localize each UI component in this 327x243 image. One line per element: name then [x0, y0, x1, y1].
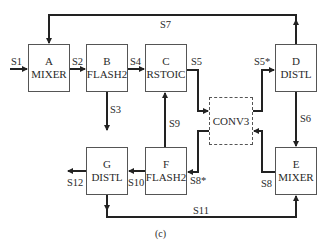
block-g-type: DISTL	[91, 171, 122, 184]
block-conv3: CONV3	[209, 97, 253, 145]
block-e-type: MIXER	[278, 171, 313, 184]
block-g-id: G	[103, 158, 111, 171]
stream-label-s4: S4	[130, 56, 141, 67]
block-e-id: E	[293, 158, 300, 171]
block-e-mixer: E MIXER	[275, 147, 317, 195]
stream-s5star-line	[253, 70, 274, 111]
block-b-type: FLASH2	[87, 68, 127, 81]
stream-label-s5: S5	[191, 56, 202, 67]
block-c-id: C	[162, 55, 169, 68]
block-f-id: F	[163, 158, 169, 171]
block-a-id: A	[45, 55, 53, 68]
block-f-type: FLASH2	[146, 171, 186, 184]
flowsheet-connections	[0, 0, 327, 243]
block-d-distl: D DISTL	[275, 44, 317, 92]
block-c-type: RSTOIC	[147, 68, 186, 81]
stream-label-s12: S12	[67, 177, 83, 188]
stream-s8-line	[254, 131, 275, 172]
figure-caption: (c)	[155, 228, 166, 239]
stream-label-s3: S3	[110, 104, 121, 115]
block-d-id: D	[292, 55, 300, 68]
stream-label-s9: S9	[169, 118, 180, 129]
stream-label-s11: S11	[193, 205, 209, 216]
stream-label-s6: S6	[300, 113, 311, 124]
block-b-id: B	[103, 55, 110, 68]
stream-label-s5star: S5*	[254, 56, 270, 67]
block-b-flash2: B FLASH2	[86, 44, 128, 92]
stream-label-s10: S10	[128, 177, 144, 188]
block-conv3-type: CONV3	[213, 115, 250, 128]
block-g-distl: G DISTL	[86, 147, 128, 195]
stream-label-s1: S1	[11, 56, 22, 67]
stream-label-s2: S2	[72, 56, 83, 67]
block-a-mixer: A MIXER	[28, 44, 70, 92]
block-a-type: MIXER	[31, 68, 66, 81]
block-d-type: DISTL	[280, 68, 311, 81]
block-f-flash2: F FLASH2	[145, 147, 187, 195]
stream-s8star-line	[188, 131, 209, 172]
stream-s7-line	[49, 15, 296, 44]
stream-label-s7: S7	[160, 19, 171, 30]
stream-label-s8: S8	[261, 178, 272, 189]
stream-s5-line	[187, 70, 208, 111]
stream-label-s8star: S8*	[190, 175, 206, 186]
block-c-rstoic: C RSTOIC	[145, 44, 187, 92]
